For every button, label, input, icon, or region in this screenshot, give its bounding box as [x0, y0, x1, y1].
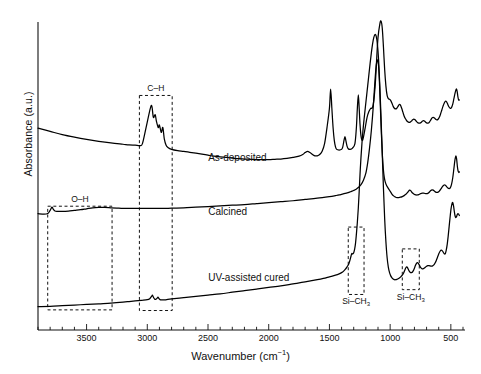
x-tick-label: 500 — [443, 333, 458, 343]
x-axis-title-paren: ) — [286, 350, 290, 362]
ftir-chart: Absorbance (a.u.) Wavenumber (cm−1) 3500… — [0, 0, 481, 374]
plot-canvas — [0, 0, 481, 374]
annotation-box — [139, 95, 172, 310]
axes-group — [38, 22, 465, 330]
curve-label: Calcined — [208, 206, 247, 217]
x-axis-title: Wavenumber (cm−1) — [0, 348, 481, 362]
annotation-label-text: C–H — [147, 83, 164, 93]
annotation-label: Si–CH3 — [397, 292, 425, 302]
annotation-label-text: O–H — [71, 194, 88, 204]
x-tick-label: 2000 — [259, 333, 279, 343]
x-axis-title-exponent: −1 — [278, 348, 287, 357]
annotation-label: Si–CH3 — [342, 296, 370, 306]
curve-label: As-deposited — [208, 152, 266, 163]
x-tick-label: 3000 — [137, 333, 157, 343]
x-axis-title-text: Wavenumber (cm — [191, 350, 277, 362]
annotation-box — [48, 206, 112, 310]
annotation-label-subscript: 3 — [367, 301, 370, 307]
spectrum-curve — [38, 21, 459, 160]
curve-label: UV-assisted cured — [208, 272, 289, 283]
x-tick-label: 1500 — [319, 333, 339, 343]
spectrum-curve — [38, 34, 459, 306]
annotation-label-text: Si–CH — [342, 296, 367, 306]
annotation-label-text: Si–CH — [397, 292, 422, 302]
annotation-label-subscript: 3 — [421, 297, 424, 303]
spectra-curves — [38, 21, 459, 307]
x-tick-label: 3500 — [77, 333, 97, 343]
annotation-label: C–H — [147, 83, 164, 93]
x-tick-label: 1000 — [380, 333, 400, 343]
annotation-label: O–H — [71, 194, 88, 204]
y-axis-title: Absorbance (a.u.) — [22, 54, 34, 214]
x-tick-label: 2500 — [198, 333, 218, 343]
spectrum-curve — [38, 60, 459, 214]
